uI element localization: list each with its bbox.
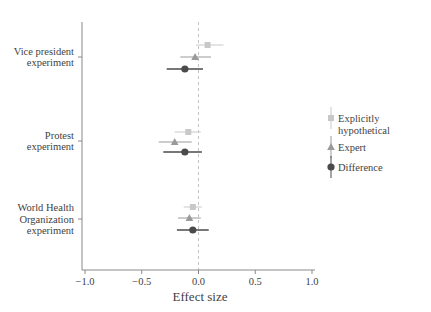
marker-circle (189, 226, 196, 233)
marker-square (205, 42, 211, 48)
y-category-label: experiment (27, 225, 74, 236)
chart-canvas: −1.0−0.50.00.51.0 Vice presidentexperime… (0, 0, 431, 312)
forest-plot-figure: −1.0−0.50.00.51.0 Vice presidentexperime… (0, 0, 431, 312)
estimate-with-ci (196, 42, 223, 48)
legend-item-label: hypothetical (338, 125, 390, 136)
legend-item-label: Difference (338, 162, 383, 173)
x-axis-ticks (85, 270, 312, 274)
estimate-with-ci (178, 214, 201, 221)
x-tick-label: 0.5 (249, 276, 262, 287)
estimate-with-ci (167, 65, 203, 72)
marker-circle (327, 163, 334, 170)
legend: ExplicitlyhypotheticalExpertDifference (327, 107, 390, 178)
y-category-label: Protest (45, 130, 74, 141)
estimate-with-ci (180, 53, 211, 60)
x-axis-title: Effect size (173, 289, 228, 304)
x-tick-label: −0.5 (132, 276, 151, 287)
y-category-label: experiment (27, 141, 74, 152)
x-axis-tick-labels: −1.0−0.50.00.51.0 (75, 276, 318, 287)
estimate-with-ci (159, 138, 192, 145)
y-category-label: Organization (19, 214, 74, 225)
marker-triangle (191, 53, 199, 60)
x-tick-label: 0.0 (192, 276, 205, 287)
estimate-with-ci (175, 129, 201, 135)
data-points (159, 42, 224, 234)
x-tick-label: 1.0 (305, 276, 318, 287)
y-category-label: Vice president (14, 46, 74, 57)
y-axis-category-labels: Vice presidentexperimentProtestexperimen… (14, 46, 82, 236)
marker-square (185, 129, 191, 135)
marker-square (190, 204, 196, 210)
marker-triangle (171, 138, 179, 145)
marker-circle (181, 65, 188, 72)
marker-triangle (186, 214, 194, 221)
estimate-with-ci (163, 148, 202, 155)
y-category-label: experiment (27, 57, 74, 68)
marker-triangle (327, 143, 335, 150)
estimate-with-ci (184, 204, 202, 210)
estimate-with-ci (177, 226, 209, 233)
legend-item-label: Expert (338, 142, 366, 153)
marker-square (328, 115, 334, 121)
legend-item-label: Explicitly (338, 113, 380, 124)
x-tick-label: −1.0 (75, 276, 94, 287)
y-category-label: World Health (17, 202, 74, 213)
marker-circle (181, 148, 188, 155)
